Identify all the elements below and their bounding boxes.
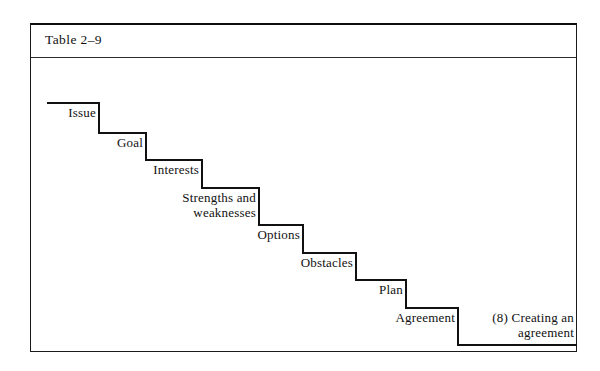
staircase-step-label-6: Obstacles bbox=[301, 255, 353, 270]
table-header-row: Table 2–9 bbox=[31, 25, 576, 58]
staircase-step-label-3: Interests bbox=[153, 162, 199, 177]
table-caption: Table 2–9 bbox=[45, 32, 102, 48]
staircase-step-label-5: Options bbox=[257, 227, 300, 242]
staircase-step-label-1: Issue bbox=[68, 105, 96, 120]
staircase-outcome-label: (8) Creating an agreement bbox=[464, 310, 574, 340]
table-frame: Table 2–9 IssueGoalInterestsStrengths an… bbox=[30, 23, 577, 352]
staircase-step-label-4: Strengths and weaknesses bbox=[182, 190, 256, 220]
staircase-step-label-7: Plan bbox=[379, 282, 403, 297]
staircase-step-label-8: Agreement bbox=[395, 310, 455, 325]
staircase-diagram: IssueGoalInterestsStrengths and weakness… bbox=[31, 58, 576, 351]
staircase-step-label-2: Goal bbox=[117, 135, 143, 150]
staircase-path-svg bbox=[31, 58, 577, 353]
